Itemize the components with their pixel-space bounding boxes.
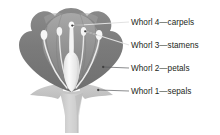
leader-marker-whorl1: [97, 89, 99, 91]
label-whorl-1-sepals: Whorl 1—sepals: [131, 88, 191, 96]
stamen-anther-left-inner: [57, 27, 63, 36]
label-whorl-4-carpels: Whorl 4—carpels: [131, 19, 194, 27]
flower-whorls-figure: Whorl 4—carpels Whorl 3—stamens Whorl 2—…: [0, 0, 220, 135]
receptacle-stem-group: [60, 92, 83, 133]
leader-marker-whorl3: [84, 30, 86, 32]
carpel-style: [69, 26, 74, 55]
leader-marker-whorl2: [102, 66, 104, 68]
leader-marker-whorl4: [71, 24, 73, 26]
stamen-anther-left-outer: [41, 30, 48, 40]
label-whorl-2-petals: Whorl 2—petals: [131, 65, 190, 73]
label-whorl-3-stamens: Whorl 3—stamens: [131, 42, 199, 50]
